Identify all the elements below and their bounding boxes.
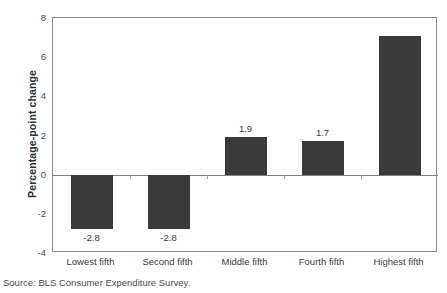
bar[interactable]	[71, 175, 113, 230]
bar-group: -2.8	[130, 18, 207, 253]
x-category-label: Lowest fifth	[52, 256, 129, 267]
y-tick-label: -4	[18, 248, 46, 257]
y-tick-label: 4	[18, 91, 46, 100]
x-axis-category-labels: Lowest fifthSecond fifthMiddle fifthFour…	[52, 256, 437, 270]
plot-area: -2.8-2.81.91.7	[52, 17, 437, 252]
category-tick-mark	[207, 175, 208, 179]
y-tick-label: 2	[18, 131, 46, 140]
x-category-label: Fourth fifth	[283, 256, 360, 267]
bar-value-label: -2.8	[160, 233, 176, 243]
bar[interactable]	[148, 175, 190, 230]
category-tick-mark	[284, 175, 285, 179]
bar[interactable]	[302, 141, 344, 174]
bar-value-label: 1.7	[316, 128, 329, 138]
figure-chart: Percentage-point change 86420-2-4 -2.8-2…	[0, 0, 447, 293]
y-tick-label: -2	[18, 209, 46, 218]
bar[interactable]	[379, 36, 421, 175]
y-tick-label: 8	[18, 13, 46, 22]
bar[interactable]	[225, 137, 267, 174]
bar-series: -2.8-2.81.91.7	[53, 18, 438, 253]
bar-group: -2.8	[53, 18, 130, 253]
category-tick-mark	[130, 175, 131, 179]
cut-off-title-remnant	[0, 0, 447, 7]
x-category-label: Highest fifth	[360, 256, 437, 267]
bar-group	[361, 18, 438, 253]
y-tick-label: 0	[18, 170, 46, 179]
bar-value-label: 1.9	[239, 124, 252, 134]
category-tick-mark	[361, 175, 362, 179]
x-category-label: Second fifth	[129, 256, 206, 267]
bar-group: 1.7	[284, 18, 361, 253]
y-tick-label: 6	[18, 52, 46, 61]
source-note: Source: BLS Consumer Expenditure Survey.	[3, 277, 190, 288]
bar-group: 1.9	[207, 18, 284, 253]
bar-value-label: -2.8	[83, 233, 99, 243]
x-category-label: Middle fifth	[206, 256, 283, 267]
